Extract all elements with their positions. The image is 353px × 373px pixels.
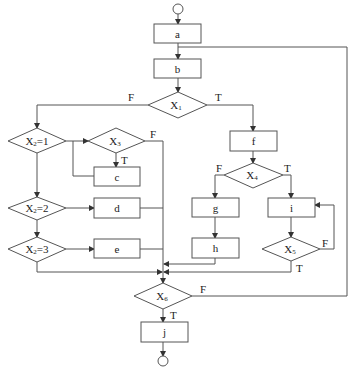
x2-1-suffix: =1	[37, 135, 49, 147]
decision-x4: X4	[224, 163, 283, 188]
process-b-label: b	[175, 63, 181, 75]
process-c-label: c	[115, 171, 120, 183]
process-f: f	[230, 131, 277, 151]
x5-subscript: 5	[292, 248, 296, 256]
end-terminal	[158, 356, 168, 366]
process-e-label: e	[115, 243, 120, 255]
x1-label: X	[170, 99, 178, 111]
x6-label: X	[156, 290, 164, 302]
decision-x1: X1	[148, 92, 207, 118]
decision-x3: X3	[88, 128, 145, 153]
decision-x2-eq-1: X2=1	[8, 128, 66, 153]
x5-false-label: F	[322, 237, 328, 249]
x5-true-label: T	[296, 262, 303, 274]
x2-2-suffix: =2	[37, 202, 49, 214]
x4-false-label: F	[216, 162, 222, 174]
process-d: d	[94, 198, 140, 218]
x6-true-label: T	[170, 309, 177, 321]
process-a-label: a	[175, 28, 180, 40]
process-i-label: i	[290, 202, 293, 214]
process-c: c	[94, 167, 140, 186]
process-h: h	[192, 238, 239, 258]
edge-x3-false	[145, 141, 163, 283]
process-h-label: h	[213, 242, 219, 254]
flowchart-canvas: F T F T F T F T F T a b c d e f g	[0, 0, 353, 373]
edge-x4-false	[215, 175, 224, 198]
edge-x1-true	[207, 105, 253, 131]
decision-x2-eq-3: X2=3	[8, 237, 66, 262]
decision-x2-eq-2: X2=2	[8, 197, 66, 220]
svg-text:X2=1: X2=1	[25, 135, 48, 148]
x2-2-label: X	[25, 202, 33, 214]
decision-x5: X5	[262, 237, 320, 261]
edge-x5-true	[164, 261, 291, 272]
x3-subscript: 3	[117, 140, 121, 148]
x2-3-suffix: =3	[37, 243, 49, 255]
edge-x1-false	[37, 105, 148, 128]
edge-c-x3	[73, 141, 94, 176]
x1-subscript: 1	[178, 104, 182, 112]
svg-text:X2=3: X2=3	[25, 243, 49, 256]
x5-label: X	[284, 243, 292, 255]
process-b: b	[154, 59, 201, 78]
process-d-label: d	[114, 202, 120, 214]
start-terminal	[173, 4, 183, 14]
process-i: i	[268, 198, 315, 217]
x4-label: X	[246, 169, 254, 181]
svg-text:X2=2: X2=2	[25, 202, 48, 215]
x6-subscript: 6	[164, 295, 168, 303]
process-j: j	[141, 322, 188, 342]
process-a: a	[154, 24, 201, 43]
x6-false-label: F	[200, 283, 206, 295]
x4-subscript: 4	[254, 174, 258, 182]
x1-false-label: F	[128, 91, 134, 103]
x1-true-label: T	[215, 91, 222, 103]
process-j-label: j	[162, 326, 166, 338]
edge-x4-true	[283, 175, 291, 198]
x2-1-label: X	[25, 135, 33, 147]
process-e: e	[94, 239, 140, 258]
decision-x6: X6	[134, 283, 192, 309]
process-f-label: f	[252, 135, 256, 147]
process-g: g	[192, 198, 239, 217]
x3-label: X	[109, 135, 117, 147]
edge-x23-merge	[37, 262, 162, 272]
x3-false-label: F	[150, 128, 156, 140]
x4-true-label: T	[284, 162, 291, 174]
x3-true-label: T	[121, 154, 128, 166]
x2-3-label: X	[25, 243, 33, 255]
process-g-label: g	[213, 202, 219, 214]
edge-h-merge	[164, 258, 215, 264]
